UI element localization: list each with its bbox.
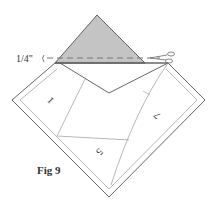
- scissors-icon: [150, 52, 175, 63]
- piece-label-1: 1: [45, 94, 56, 105]
- piece-label-5: 5: [94, 146, 105, 157]
- quilt-block-diagram: 1/4" 1 5 7 Fig 9: [0, 0, 218, 207]
- seam-bracket: [43, 55, 45, 62]
- figure-caption: Fig 9: [37, 164, 61, 176]
- divider-2: [57, 136, 129, 140]
- piece-label-7: 7: [151, 110, 162, 121]
- divider-4: [143, 91, 150, 95]
- shaded-triangle: [55, 15, 145, 63]
- seam-allowance-label: 1/4": [16, 53, 33, 64]
- divider-1: [57, 79, 85, 136]
- outer-diamond: [12, 63, 205, 197]
